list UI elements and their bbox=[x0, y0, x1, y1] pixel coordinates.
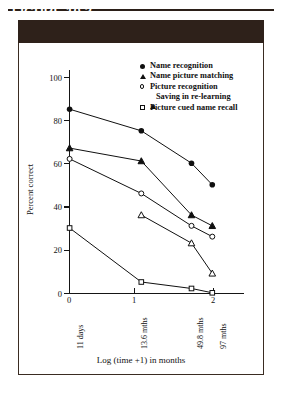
data-point-4-1 bbox=[139, 280, 144, 285]
series-line-0 bbox=[70, 109, 213, 185]
legend-label-name-picture-matching: Name picture matching bbox=[150, 71, 233, 80]
data-point-3-2 bbox=[209, 270, 216, 276]
legend-item-name-picture-matching: Name picture matching bbox=[140, 71, 256, 81]
legend-item-picture-recognition: Picture recognition bbox=[140, 82, 256, 92]
open-circle-marker-icon bbox=[140, 84, 144, 88]
filled-circle-marker-icon bbox=[140, 64, 145, 69]
series-line-3 bbox=[141, 215, 212, 273]
data-point-3-0 bbox=[138, 212, 145, 218]
chart-plot-area: 0 20 40 60 80 100 0 1 2 11 days 13.6 mth… bbox=[0, 0, 282, 395]
data-point-0-2 bbox=[189, 160, 195, 166]
data-point-2-1 bbox=[139, 191, 144, 196]
data-point-0-3 bbox=[209, 182, 215, 188]
data-point-2-3 bbox=[210, 234, 215, 239]
data-point-4-0 bbox=[67, 226, 72, 231]
data-point-1-3 bbox=[209, 223, 216, 229]
data-point-4-3 bbox=[210, 291, 215, 296]
data-series-layer bbox=[0, 0, 282, 395]
data-point-2-2 bbox=[189, 223, 194, 228]
data-point-3-1 bbox=[188, 240, 195, 246]
figure-page: FIGURE 10.3 0 20 40 60 80 100 0 1 2 11 d… bbox=[0, 0, 282, 395]
open-square-marker-icon bbox=[140, 105, 145, 110]
legend-item-saving-in-re-learning: Saving in re-learning bbox=[140, 92, 256, 102]
legend-item-picture-cued-name-recall: Picture cued name recall bbox=[140, 103, 256, 113]
data-point-0-0 bbox=[67, 106, 73, 112]
data-point-4-2 bbox=[189, 286, 194, 291]
legend-label-picture-recognition: Picture recognition bbox=[150, 82, 218, 91]
chart-legend: Name recognition Name picture matching P… bbox=[140, 61, 256, 113]
data-point-1-0 bbox=[66, 145, 73, 151]
data-point-0-1 bbox=[139, 128, 145, 134]
legend-label-picture-cued-name-recall: Picture cued name recall bbox=[150, 103, 237, 112]
filled-triangle-marker-icon bbox=[140, 74, 146, 79]
legend-label-saving-in-re-learning: Saving in re-learning bbox=[156, 92, 231, 101]
legend-label-name-recognition: Name recognition bbox=[150, 61, 213, 70]
data-point-2-0 bbox=[67, 156, 72, 161]
legend-item-name-recognition: Name recognition bbox=[140, 61, 256, 71]
